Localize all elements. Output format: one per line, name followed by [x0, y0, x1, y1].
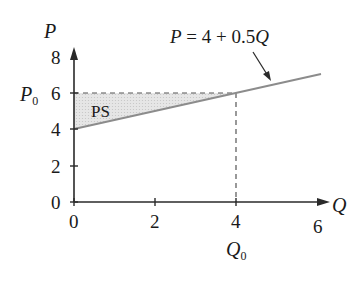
q0-subscript: 0 [240, 249, 246, 263]
annotation-arrow [253, 52, 268, 76]
x-tick-label: 4 [231, 211, 241, 232]
p0-main: P [19, 83, 32, 105]
y-tick-label: 8 [51, 47, 61, 68]
y-axis-label: P [43, 20, 56, 42]
equation-label: P = 4 + 0.5Q [169, 26, 269, 47]
producer-surplus-chart: 0 2 4 6 8 0 2 4 6 P Q P0 Q0 PS P = 4 + 0… [0, 0, 362, 281]
y-tick-label: 6 [51, 83, 61, 104]
x-tick-label: 0 [69, 211, 79, 232]
y-tick-label: 2 [51, 156, 61, 177]
x-tick-label: 2 [150, 211, 160, 232]
x-tick-label: 6 [313, 216, 323, 237]
p0-label: P0 [19, 83, 38, 108]
q0-main: Q [226, 238, 241, 260]
y-tick-label: 0 [51, 192, 61, 213]
q0-label: Q0 [226, 238, 246, 263]
y-tick-label: 4 [51, 119, 61, 140]
y-axis-arrow-icon [70, 47, 78, 60]
ps-label: PS [91, 102, 110, 121]
p0-subscript: 0 [32, 94, 38, 108]
x-axis-label: Q [332, 194, 347, 216]
annotation-arrowhead-icon [263, 71, 271, 81]
x-axis-arrow-icon [317, 198, 330, 206]
